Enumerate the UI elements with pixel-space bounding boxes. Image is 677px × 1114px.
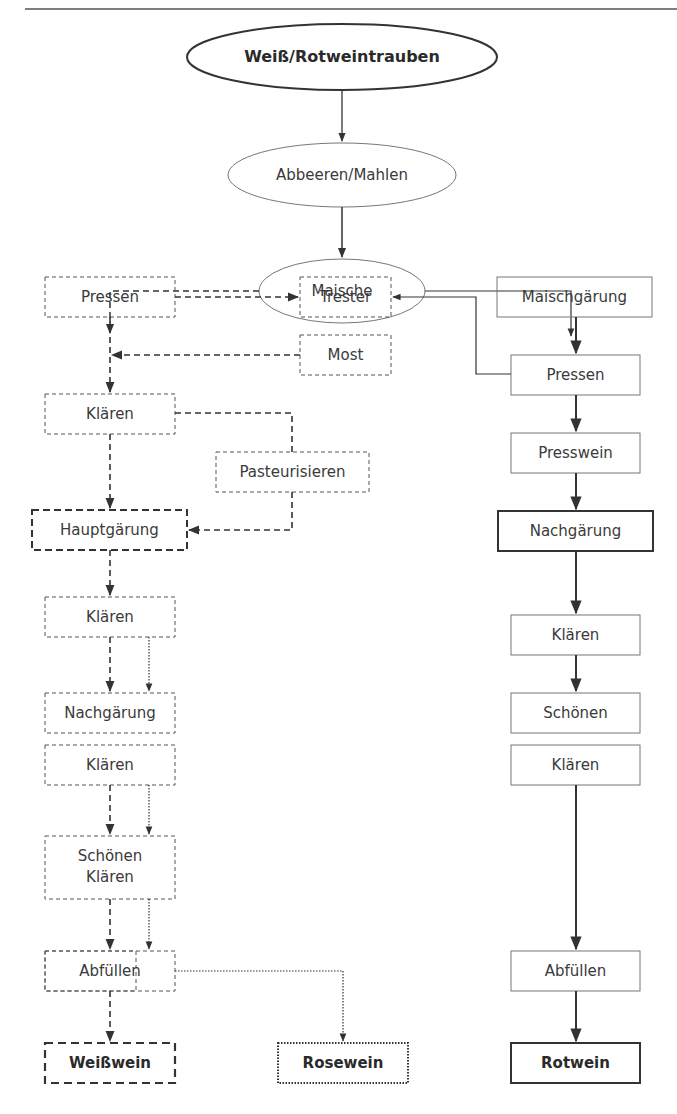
trester-node: Trester xyxy=(300,277,391,317)
red-pressen-node: Pressen xyxy=(511,355,640,395)
maischgaerung-node: Maischgärung xyxy=(497,277,652,317)
white-pressen-node: Pressen xyxy=(45,277,175,317)
white-schoenen-node-line1: Schönen xyxy=(45,846,175,866)
white-schoenen-node-line2: Klären xyxy=(45,867,175,887)
rosewein-node: Rosewein xyxy=(278,1043,408,1083)
white-klaeren-3-node: Klären xyxy=(45,745,175,785)
red-klaeren-2-node: Klären xyxy=(511,745,640,785)
hauptgaerung-node: Hauptgärung xyxy=(32,510,187,550)
white-nachgaerung-node: Nachgärung xyxy=(45,693,175,733)
most-node: Most xyxy=(300,335,391,375)
red-schoenen-node: Schönen xyxy=(511,693,640,733)
white-klaeren-2-node: Klären xyxy=(45,597,175,637)
red-abfuellen-node: Abfüllen xyxy=(511,951,640,991)
start-node: Weiß/Rotweintrauben xyxy=(187,40,497,74)
rotwein-node: Rotwein xyxy=(511,1043,640,1083)
white-klaeren-1-node: Klären xyxy=(45,394,175,434)
white-abfuellen-node: Abfüllen xyxy=(45,951,175,991)
weisswein-node: Weißwein xyxy=(45,1043,175,1083)
pasteurisieren-node: Pasteurisieren xyxy=(216,452,369,492)
abbeeren-node: Abbeeren/Mahlen xyxy=(228,163,456,187)
red-nachgaerung-node: Nachgärung xyxy=(498,511,653,551)
presswein-node: Presswein xyxy=(511,433,640,473)
red-klaeren-1-node: Klären xyxy=(511,615,640,655)
